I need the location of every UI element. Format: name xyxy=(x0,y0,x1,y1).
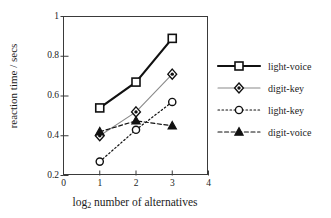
x-tick-label: 4 xyxy=(199,179,219,189)
legend-label: light-key xyxy=(262,105,304,116)
x-tick-label: 2 xyxy=(126,179,146,189)
legend-item-light-key[interactable]: light-key xyxy=(216,99,331,121)
plot-area xyxy=(63,16,208,175)
x-axis-tick-labels: 01234 xyxy=(0,179,331,193)
x-axis-title-rest: number of alternatives xyxy=(91,196,197,208)
y-tick-label: 0.8 xyxy=(47,51,59,61)
legend-label: digit-voice xyxy=(262,127,311,138)
chart-figure: 0.20.40.60.81 reaction time / secs 01234… xyxy=(0,0,331,218)
x-axis-title-base: log xyxy=(72,196,87,208)
x-tick-label: 3 xyxy=(162,179,182,189)
legend-marker-icon xyxy=(216,125,262,139)
y-axis-title: reaction time / secs xyxy=(7,21,19,151)
legend-label: digit-key xyxy=(262,83,304,94)
x-axis-title-subscript: 2 xyxy=(87,201,91,210)
legend-marker-icon xyxy=(216,81,262,95)
legend-marker-icon xyxy=(216,59,262,73)
y-tick-label: 1 xyxy=(54,12,59,22)
y-tick-label: 0.4 xyxy=(47,131,59,141)
y-tick-label: 0.6 xyxy=(47,91,59,101)
x-axis-title: log2 number of alternatives xyxy=(40,196,230,208)
x-tick-label: 1 xyxy=(90,179,110,189)
legend: light-voicedigit-keylight-keydigit-voice xyxy=(216,55,331,143)
legend-marker-icon xyxy=(216,103,262,117)
legend-item-light-voice[interactable]: light-voice xyxy=(216,55,331,77)
legend-item-digit-key[interactable]: digit-key xyxy=(216,77,331,99)
legend-label: light-voice xyxy=(262,61,311,72)
legend-item-digit-voice[interactable]: digit-voice xyxy=(216,121,331,143)
x-tick-label: 0 xyxy=(54,179,74,189)
